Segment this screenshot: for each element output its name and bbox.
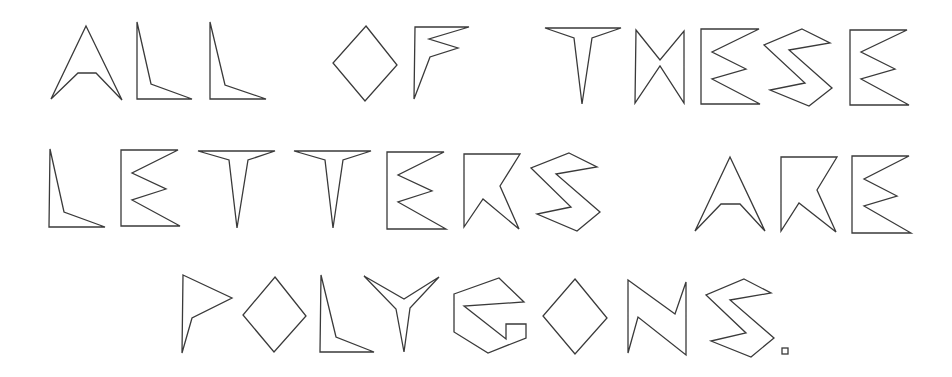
line-3 bbox=[182, 275, 788, 357]
letter-p bbox=[182, 275, 232, 353]
letter-o bbox=[243, 277, 306, 352]
letter-r bbox=[781, 157, 837, 232]
letter-t bbox=[545, 28, 621, 104]
letter-e bbox=[121, 150, 180, 226]
letter-s bbox=[706, 279, 774, 357]
line-2 bbox=[49, 149, 911, 233]
letter-y bbox=[364, 276, 439, 352]
letter-l bbox=[137, 22, 192, 99]
period-square bbox=[782, 348, 788, 354]
letter-l bbox=[49, 149, 105, 227]
line-1 bbox=[51, 22, 909, 106]
letter-e bbox=[701, 29, 760, 104]
letter-g bbox=[454, 278, 526, 353]
letter-a bbox=[695, 157, 765, 231]
letter-s bbox=[764, 29, 832, 106]
letter-o bbox=[333, 26, 397, 101]
letter-o bbox=[543, 279, 607, 354]
letter-l bbox=[210, 22, 266, 99]
polygon-letters-canvas: ALL OF THESE LETTERS ARE POLYGONS. bbox=[0, 0, 952, 377]
polygon-letters-svg bbox=[0, 0, 952, 377]
letter-l bbox=[320, 275, 374, 352]
letter-n bbox=[628, 280, 686, 355]
letter-r bbox=[464, 154, 520, 229]
letter-t bbox=[198, 151, 275, 228]
letter-h bbox=[635, 30, 684, 103]
letter-s bbox=[531, 153, 600, 231]
letter-e bbox=[850, 30, 909, 105]
letter-e bbox=[852, 156, 911, 233]
letter-a bbox=[51, 26, 122, 100]
letter-t bbox=[294, 151, 371, 228]
letter-f bbox=[414, 27, 469, 99]
letter-e bbox=[387, 152, 446, 229]
